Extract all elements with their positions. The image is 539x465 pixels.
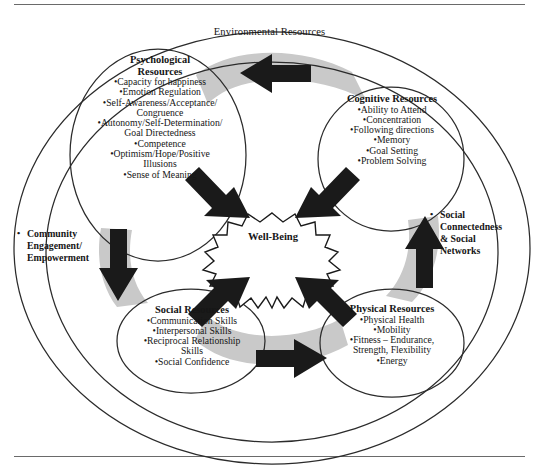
node-psychological-items: •Capacity for happiness •Emotion Regulat… bbox=[70, 77, 250, 180]
node-physical-title: Physical Resources bbox=[312, 303, 472, 314]
note-line: Connectedness bbox=[440, 221, 535, 233]
node-psychological: Psychological Resources •Capacity for ha… bbox=[70, 54, 250, 180]
note-line: Engagement/ bbox=[27, 240, 122, 252]
node-cognitive-title: Cognitive Resources bbox=[317, 93, 467, 104]
node-psychological-title-line1: Psychological bbox=[70, 54, 250, 65]
node-psychological-title-line2: Resources bbox=[70, 66, 250, 77]
note-line: Networks bbox=[440, 245, 535, 257]
bullet-icon: • bbox=[17, 228, 20, 239]
node-social: Social Resources •Communication Skills •… bbox=[112, 304, 272, 367]
note-line: Social bbox=[440, 209, 535, 221]
node-social-items: •Communication Skills •Interpersonal Ski… bbox=[112, 316, 272, 367]
list-item: •Social Confidence bbox=[112, 357, 272, 367]
node-cognitive-items: •Ability to Attend •Concentration •Follo… bbox=[317, 105, 467, 167]
wellbeing-label: Well-Being bbox=[233, 231, 313, 242]
list-item: •Sense of Meaning bbox=[70, 170, 250, 180]
note-community-engagement: • Community Engagement/ Empowerment bbox=[27, 228, 122, 264]
node-physical: Physical Resources •Physical Health •Mob… bbox=[312, 303, 472, 366]
note-social-connectedness: • Social Connectedness & Social Networks bbox=[440, 209, 535, 257]
environmental-resources-title: Environmental Resources bbox=[0, 26, 539, 37]
note-line: Empowerment bbox=[27, 252, 122, 264]
note-line: Community bbox=[27, 228, 122, 240]
figure-container: Environmental Resources Well-Being Psych… bbox=[0, 0, 539, 465]
list-item: •Problem Solving bbox=[317, 156, 467, 166]
arrow-cognitive-to-wellbeing bbox=[295, 167, 360, 218]
list-item: •Energy bbox=[312, 356, 472, 366]
node-cognitive: Cognitive Resources •Ability to Attend •… bbox=[317, 93, 467, 166]
node-social-title: Social Resources bbox=[112, 304, 272, 315]
bullet-icon: • bbox=[430, 209, 433, 220]
note-line: & Social bbox=[440, 233, 535, 245]
node-physical-items: •Physical Health •Mobility •Fitness – En… bbox=[312, 315, 472, 366]
